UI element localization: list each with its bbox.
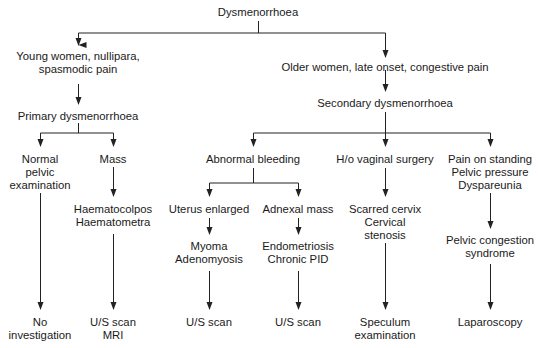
node-older-women: Older women, late onset, congestive pain: [281, 61, 488, 74]
node-label: Pelvic congestion: [446, 234, 534, 247]
node-label: Primary dysmenorrhoea: [18, 110, 139, 123]
node-label: Secondary dysmenorrhoea: [317, 97, 453, 110]
node-label: Adnexal mass: [263, 203, 334, 216]
node-label: Dyspareunia: [448, 179, 532, 192]
node-label: Older women, late onset, congestive pain: [281, 61, 488, 74]
node-us-scan-2: U/S scan: [275, 316, 321, 329]
node-label: stenosis: [349, 229, 421, 242]
node-label: pelvic: [10, 166, 71, 179]
node-label: Myoma: [175, 240, 243, 253]
node-label: examination: [355, 329, 416, 342]
node-label: No: [9, 316, 72, 329]
node-normal-pelvic-examination: Normal pelvic examination: [10, 153, 71, 192]
node-label: Chronic PID: [262, 253, 334, 266]
node-label: examination: [10, 179, 71, 192]
node-label: Pelvic pressure: [448, 166, 532, 179]
node-myoma-adenomyosis: Myoma Adenomyosis: [175, 240, 243, 266]
node-abnormal-bleeding: Abnormal bleeding: [206, 153, 300, 166]
node-primary-dysmenorrhoea: Primary dysmenorrhoea: [18, 110, 139, 123]
node-label: Mass: [100, 153, 127, 166]
node-adnexal-mass: Adnexal mass: [263, 203, 334, 216]
node-label: Adenomyosis: [175, 253, 243, 266]
node-label: Normal: [10, 153, 71, 166]
node-pain-on-standing: Pain on standing Pelvic pressure Dyspare…: [448, 153, 532, 192]
node-us-scan-1: U/S scan: [186, 316, 232, 329]
node-secondary-dysmenorrhoea: Secondary dysmenorrhoea: [317, 97, 453, 110]
node-uterus-enlarged: Uterus enlarged: [169, 203, 249, 216]
node-label: U/S scan: [90, 316, 136, 329]
node-label: Dysmenorrhoea: [218, 6, 298, 19]
node-label: U/S scan: [275, 316, 321, 329]
node-label: Young women, nullipara,: [16, 50, 139, 63]
node-label: syndrome: [446, 247, 534, 260]
node-label: Haematometra: [74, 216, 153, 229]
node-label: Haematocolpos: [74, 203, 153, 216]
node-speculum-examination: Speculum examination: [355, 316, 416, 342]
node-label: U/S scan: [186, 316, 232, 329]
node-label: Uterus enlarged: [169, 203, 249, 216]
node-label: H/o vaginal surgery: [336, 153, 433, 166]
node-label: Endometriosis: [262, 240, 334, 253]
node-label: investigation: [9, 329, 72, 342]
node-label: MRI: [90, 329, 136, 342]
node-label: Speculum: [355, 316, 416, 329]
node-label: Pain on standing: [448, 153, 532, 166]
node-dysmenorrhoea: Dysmenorrhoea: [218, 6, 298, 19]
node-label: Laparoscopy: [458, 316, 523, 329]
node-pelvic-congestion-syndrome: Pelvic congestion syndrome: [446, 234, 534, 260]
node-haematocolpos: Haematocolpos Haematometra: [74, 203, 153, 229]
node-mass: Mass: [100, 153, 127, 166]
node-label: Cervical: [349, 216, 421, 229]
node-young-women: Young women, nullipara, spasmodic pain: [16, 50, 139, 76]
node-label: spasmodic pain: [16, 63, 139, 76]
node-scarred-cervix: Scarred cervix Cervical stenosis: [349, 203, 421, 242]
node-label: Abnormal bleeding: [206, 153, 300, 166]
node-label: Scarred cervix: [349, 203, 421, 216]
node-vaginal-surgery: H/o vaginal surgery: [336, 153, 433, 166]
node-us-scan-mri: U/S scan MRI: [90, 316, 136, 342]
node-endometriosis-chronic-pid: Endometriosis Chronic PID: [262, 240, 334, 266]
node-no-investigation: No investigation: [9, 316, 72, 342]
node-laparoscopy: Laparoscopy: [458, 316, 523, 329]
